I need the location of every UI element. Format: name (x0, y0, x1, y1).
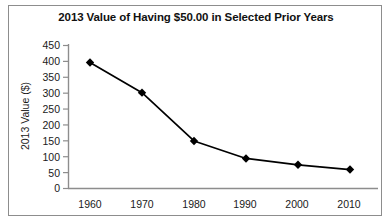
data-point-2010 (346, 165, 354, 173)
data-point-1960 (86, 58, 94, 66)
y-axis-ticks (63, 46, 69, 189)
data-point-2000 (294, 161, 302, 169)
data-point-1990 (242, 154, 250, 162)
chart-figure: 2013 Value of Having $50.00 in Selected … (0, 0, 391, 223)
data-line-series (90, 62, 350, 169)
chart-plot-area (0, 0, 391, 223)
data-point-markers (86, 58, 354, 173)
